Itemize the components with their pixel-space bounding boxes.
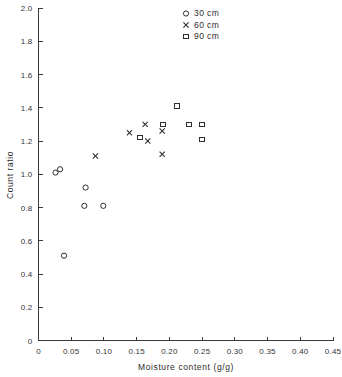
y-tick-label: 0.2: [21, 303, 33, 312]
y-axis-title: Count ratio: [5, 151, 15, 199]
x-tick-label: 0.05: [63, 347, 80, 356]
data-point: [186, 122, 191, 126]
data-point: [127, 130, 132, 135]
y-tick-label: 2.0: [21, 4, 33, 13]
data-point: [53, 170, 58, 175]
data-point: [200, 137, 205, 141]
legend-label: 60 cm: [194, 20, 219, 30]
data-points: [53, 104, 205, 258]
legend-label: 30 cm: [194, 8, 219, 18]
data-point: [83, 185, 88, 190]
x-axis-title: Moisture content (g/g): [138, 362, 234, 372]
x-tick-label: 0.30: [227, 347, 244, 356]
data-point: [82, 203, 87, 208]
y-tick-label: 1.2: [21, 137, 33, 146]
data-point: [93, 153, 98, 158]
axes: [39, 8, 334, 341]
y-tick-label: 0.8: [21, 204, 33, 213]
y-tick-label: 0: [28, 337, 33, 346]
x-axis-ticks: 00.050.100.150.200.250.300.350.400.45: [36, 337, 341, 356]
data-point: [160, 122, 165, 126]
x-tick-label: 0.15: [128, 347, 145, 356]
x-tick-label: 0.20: [161, 347, 178, 356]
legend: 30 cm60 cm90 cm: [183, 8, 219, 41]
data-point: [145, 138, 150, 143]
y-tick-label: 1.8: [21, 37, 33, 46]
x-tick-label: 0.10: [96, 347, 113, 356]
scatter-chart: 00.20.40.60.81.01.21.41.61.82.0 00.050.1…: [0, 0, 342, 377]
x-tick-label: 0.25: [194, 347, 211, 356]
x-tick-label: 0.45: [325, 347, 342, 356]
legend-label: 90 cm: [194, 31, 219, 41]
x-tick-label: 0.35: [259, 347, 276, 356]
y-tick-label: 1.6: [21, 71, 33, 80]
y-tick-label: 1.0: [21, 170, 33, 179]
legend-marker-circle: [183, 11, 188, 16]
x-tick-label: 0.40: [292, 347, 309, 356]
data-point: [200, 122, 205, 126]
data-point: [137, 135, 142, 139]
legend-marker-x: [183, 22, 188, 27]
y-tick-label: 0.4: [21, 270, 33, 279]
y-axis-ticks: 00.20.40.60.81.01.21.41.61.82.0: [21, 4, 43, 346]
data-point: [57, 167, 62, 172]
y-tick-label: 1.4: [21, 104, 33, 113]
data-point: [160, 128, 165, 133]
legend-marker-square: [183, 34, 188, 38]
plot-area: 00.20.40.60.81.01.21.41.61.82.0 00.050.1…: [0, 0, 342, 377]
y-tick-label: 0.6: [21, 237, 33, 246]
data-point: [160, 152, 165, 157]
series-60-cm: [93, 122, 165, 159]
data-point: [175, 104, 180, 108]
data-point: [143, 122, 148, 127]
data-point: [61, 253, 66, 258]
series-30-cm: [53, 167, 106, 259]
x-tick-label: 0: [36, 347, 41, 356]
data-point: [101, 203, 106, 208]
